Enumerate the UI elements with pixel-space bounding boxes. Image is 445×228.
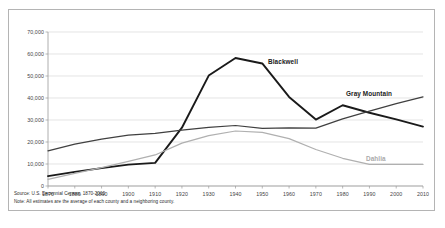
x-tick-label: 1900	[117, 191, 139, 197]
x-tick-label: 1950	[251, 191, 273, 197]
y-tick-label: 10,000	[14, 161, 44, 167]
series-label-blackwell: Blackwell	[268, 58, 298, 65]
y-tick-label: 0	[14, 183, 44, 189]
y-tick-label: 40,000	[14, 95, 44, 101]
series-label-dahlia: Dahlia	[366, 155, 386, 162]
chart-canvas	[9, 10, 434, 210]
x-tick-label: 1910	[144, 191, 166, 197]
y-tick-label: 20,000	[14, 139, 44, 145]
footnote-source: Source: U.S. Decennial Census, 1870-2010	[14, 191, 105, 196]
x-tick-label: 1940	[225, 191, 247, 197]
y-tick-label: 50,000	[14, 73, 44, 79]
y-tick-label: 60,000	[14, 51, 44, 57]
x-tick-label: 2010	[412, 191, 434, 197]
x-tick-label: 1960	[278, 191, 300, 197]
x-tick-label: 1970	[305, 191, 327, 197]
footnote-note: Note: All estimates are the average of e…	[14, 199, 174, 204]
x-tick-label: 1980	[332, 191, 354, 197]
series-line-gray-mountain	[48, 97, 423, 151]
x-tick-label: 2000	[385, 191, 407, 197]
series-label-gray-mountain: Gray Mountain	[346, 90, 392, 97]
x-tick-label: 1990	[358, 191, 380, 197]
x-tick-label: 1920	[171, 191, 193, 197]
y-tick-label: 30,000	[14, 117, 44, 123]
x-tick-label: 1930	[198, 191, 220, 197]
y-tick-label: 70,000	[14, 29, 44, 35]
chart-plot-area: 010,00020,00030,00040,00050,00060,00070,…	[9, 10, 434, 210]
chart-frame: 010,00020,00030,00040,00050,00060,00070,…	[8, 9, 435, 211]
